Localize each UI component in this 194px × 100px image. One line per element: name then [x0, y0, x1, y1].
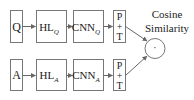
cosine-similarity-node: · Cosine Similarity	[145, 8, 190, 59]
hl-q-label: HLQ	[39, 21, 59, 36]
input-q-label: Q	[12, 20, 21, 34]
qa-cosine-similarity-diagram: Q HLQ CNNQ P + T A HLA CNNA P + T · Cosi…	[0, 0, 194, 100]
arrow-pool-a-to-cosine	[126, 56, 148, 76]
cnn-a-label: CNNA	[72, 69, 100, 84]
input-a-label: A	[12, 68, 21, 82]
similarity-label: Similarity	[145, 22, 190, 34]
hl-a-label: HLA	[40, 69, 60, 84]
cosine-label: Cosine	[152, 8, 183, 20]
row-answer: A HLA CNNA P + T	[11, 56, 148, 91]
row-question: Q HLQ CNNQ P + T	[11, 11, 148, 43]
cnn-q-label: CNNQ	[72, 21, 100, 36]
pool-q-t: T	[116, 31, 122, 42]
arrow-pool-q-to-cosine	[126, 27, 148, 42]
dot-product-icon: ·	[153, 42, 156, 53]
pool-a-t: T	[116, 80, 122, 91]
